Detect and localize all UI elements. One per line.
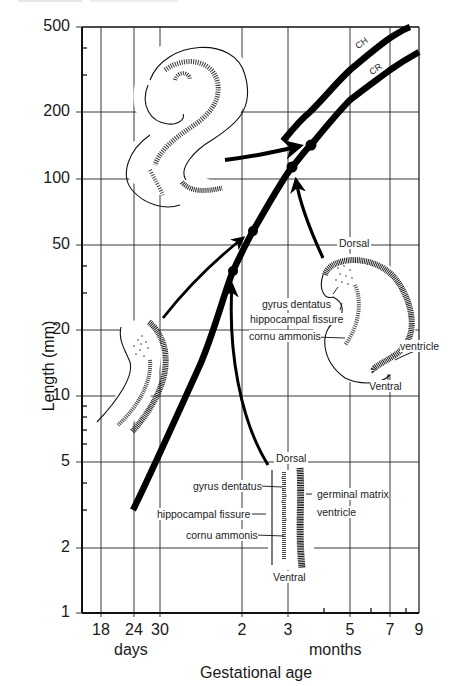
bottom-inset-ventral: Ventral bbox=[273, 571, 306, 583]
x-tick-7: 7 bbox=[375, 621, 405, 639]
y-tick-50: 50 bbox=[22, 235, 70, 253]
right-inset-ventral: Ventral bbox=[369, 380, 402, 392]
y-tick-5: 5 bbox=[22, 452, 70, 470]
arrow-bottom-inset bbox=[231, 285, 268, 465]
x-tick-9: 9 bbox=[404, 621, 434, 639]
x-tick-3: 3 bbox=[273, 621, 303, 639]
ch-curve bbox=[283, 27, 410, 141]
right-inset-cornu-ammonis: cornu ammonis bbox=[249, 330, 321, 342]
right-inset-ventricle: ventricle bbox=[400, 340, 439, 352]
x-unit-days: days bbox=[114, 641, 148, 659]
arrow-top-inset bbox=[225, 146, 300, 160]
right-inset-gyrus-dentatus: gyrus dentatus bbox=[262, 298, 331, 310]
y-tick-2: 2 bbox=[22, 538, 70, 556]
y-axis-title: Length (mm) bbox=[40, 311, 58, 421]
bottom-inset-dorsal: Dorsal bbox=[274, 452, 308, 464]
bottom-inset-hippocampal-fissure: hippocampal fissure bbox=[157, 508, 250, 520]
arrow-right-inset bbox=[296, 180, 323, 258]
right-inset-hippocampal-fissure: hippocampal fissure bbox=[250, 313, 343, 325]
x-tick-5: 5 bbox=[335, 621, 365, 639]
bottom-inset-gyrus-dentatus: gyrus dentatus bbox=[193, 480, 262, 492]
bottom-inset-germinal-matrix: germinal matrix bbox=[317, 488, 389, 500]
x-unit-months: months bbox=[309, 641, 361, 659]
bottom-inset-cornu-ammonis: cornu ammonis bbox=[186, 529, 258, 541]
y-tick-200: 200 bbox=[22, 102, 70, 120]
bottom-inset-ventricle: ventricle bbox=[317, 506, 356, 518]
right-inset-dorsal: Dorsal bbox=[337, 237, 371, 249]
x-tick-2: 2 bbox=[227, 621, 257, 639]
y-tick-1: 1 bbox=[22, 603, 70, 621]
x-tick-30: 30 bbox=[145, 621, 175, 639]
y-tick-100: 100 bbox=[22, 169, 70, 187]
x-tick-18: 18 bbox=[86, 621, 116, 639]
y-tick-500: 500 bbox=[22, 17, 70, 35]
x-axis-title: Gestational age bbox=[200, 664, 312, 682]
